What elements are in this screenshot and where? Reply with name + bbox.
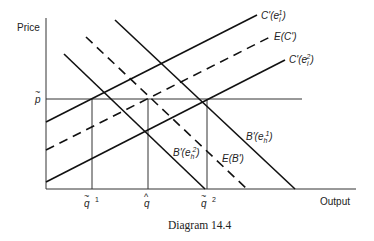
svg-text:~: ~ [201, 191, 206, 201]
y-axis-label: Price [17, 22, 40, 33]
price-marker-label: p ~ [34, 87, 41, 105]
x-axis-label: Output [320, 196, 350, 207]
label-expected-b: E(B') [222, 153, 244, 164]
svg-text:~: ~ [84, 191, 89, 201]
svg-text:2: 2 [212, 196, 216, 203]
supply-curve-c-e2 [46, 60, 285, 182]
supply-curve-c-e1 [46, 15, 257, 122]
q-hat-label: q ^ [144, 192, 150, 209]
label-b-e2: B'(eh2) [173, 146, 200, 160]
label-c-e1: C'(ei1) [261, 9, 286, 23]
q-tilde-1-label: q ~ 1 [84, 191, 99, 209]
diagram-caption: Diagram 14.4 [168, 219, 231, 232]
q-tilde-2-label: q ~ 2 [201, 191, 216, 209]
label-c-e2: C'(ei2) [289, 53, 314, 67]
diagram-canvas: Price Output p ~ q ~ 1 q ^ q ~ 2 C'(ei1)… [0, 0, 374, 241]
demand-curve-expected-b [86, 37, 247, 189]
demand-curve-b-e1 [115, 20, 295, 189]
svg-text:1: 1 [95, 196, 99, 203]
demand-curve-b-e2 [64, 54, 205, 189]
svg-text:~: ~ [35, 87, 40, 97]
label-expected-c: E(C') [274, 31, 296, 42]
label-b-e1: B'(eh1) [246, 130, 273, 144]
